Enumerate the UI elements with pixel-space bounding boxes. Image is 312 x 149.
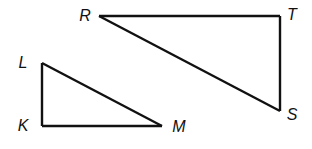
side-ml xyxy=(42,63,162,126)
vertex-label-r: R xyxy=(79,7,91,24)
geometry-diagram: R T S L K M xyxy=(0,0,312,149)
vertex-label-l: L xyxy=(19,54,28,71)
vertex-label-s: S xyxy=(287,106,298,123)
vertex-label-t: T xyxy=(287,6,298,23)
vertex-label-k: K xyxy=(18,117,30,134)
triangle-rts xyxy=(99,16,280,111)
side-sr xyxy=(99,16,280,111)
vertex-label-m: M xyxy=(172,118,186,135)
triangle-lkm xyxy=(42,63,162,126)
